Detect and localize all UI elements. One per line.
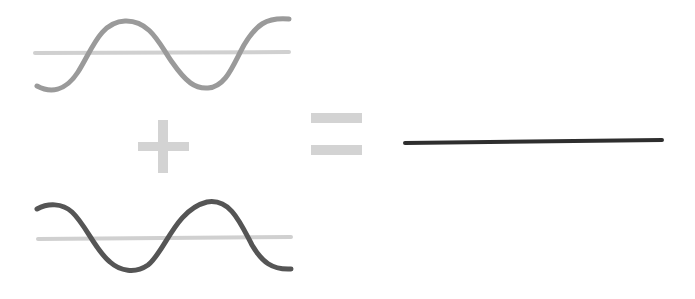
bottom-wave-group: [37, 202, 291, 271]
result-flat-line: [405, 140, 662, 143]
equals-bottom-bar: [311, 145, 362, 155]
equals-top-bar: [311, 113, 362, 123]
plus-sign: [138, 120, 189, 173]
interference-diagram: [0, 0, 695, 299]
plus-vertical-bar: [158, 120, 168, 173]
top-wave-axis: [35, 52, 289, 53]
top-wave-group: [35, 19, 289, 90]
equals-sign: [311, 113, 362, 155]
